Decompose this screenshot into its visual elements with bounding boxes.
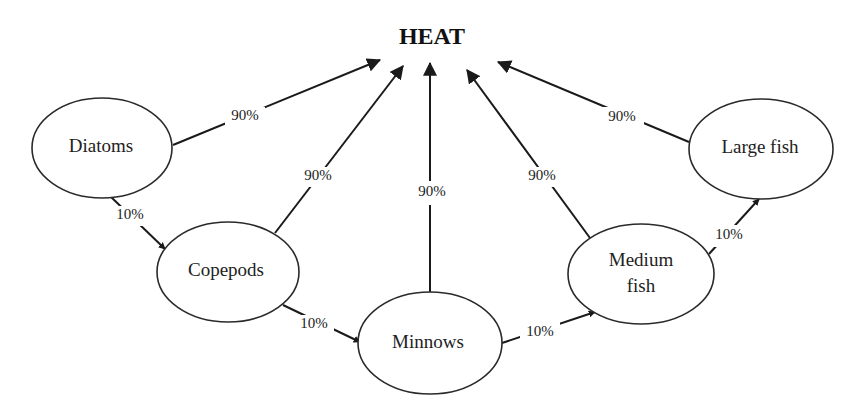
edge-label: 90%	[304, 167, 332, 183]
edge-diatoms-to-heat: 90%	[173, 60, 380, 145]
edge-diatoms-to-copepods: 10%	[110, 196, 165, 249]
edge-label: 90%	[418, 183, 446, 199]
arrow-icon	[498, 62, 689, 142]
arrow-icon	[467, 70, 590, 238]
edge-minnows-to-heat: 90%	[412, 63, 452, 292]
node-ellipse	[568, 224, 714, 324]
edge-large-fish-to-heat: 90%	[498, 62, 689, 142]
edge-label: 90%	[528, 167, 556, 183]
edge-label: 10%	[526, 323, 554, 339]
node-label-line1: Medium	[609, 249, 674, 270]
arrow-icon	[275, 66, 403, 233]
node-label: Diatoms	[69, 135, 133, 156]
edge-copepods-to-minnows: 10%	[283, 305, 360, 342]
node-label-line2: fish	[627, 275, 656, 296]
node-label: Large fish	[721, 136, 799, 157]
edge-label: 10%	[116, 206, 144, 222]
arrow-icon	[173, 60, 380, 145]
edge-medium-fish-to-heat: 90%	[467, 70, 590, 238]
edge-label: 10%	[715, 226, 743, 242]
node-label: Minnows	[392, 331, 464, 352]
node-medium-fish: Medium fish	[568, 224, 714, 324]
edge-label: 90%	[608, 108, 636, 124]
node-copepods: Copepods	[157, 222, 299, 322]
edge-minnows-to-medium-fish: 10%	[502, 312, 595, 344]
energy-flow-diagram: HEAT 90% 90% 90% 90% 90% 10% 10% 10	[0, 0, 861, 418]
node-label: Copepods	[188, 259, 264, 280]
node-diatoms: Diatoms	[32, 98, 172, 198]
edge-label: 90%	[231, 107, 259, 123]
edge-medium-fish-to-large-fish: 10%	[709, 199, 759, 254]
heat-title: HEAT	[399, 23, 465, 49]
edge-copepods-to-heat: 90%	[275, 66, 403, 233]
node-large-fish: Large fish	[689, 99, 833, 199]
edge-label: 10%	[300, 315, 328, 331]
node-minnows: Minnows	[358, 292, 502, 394]
